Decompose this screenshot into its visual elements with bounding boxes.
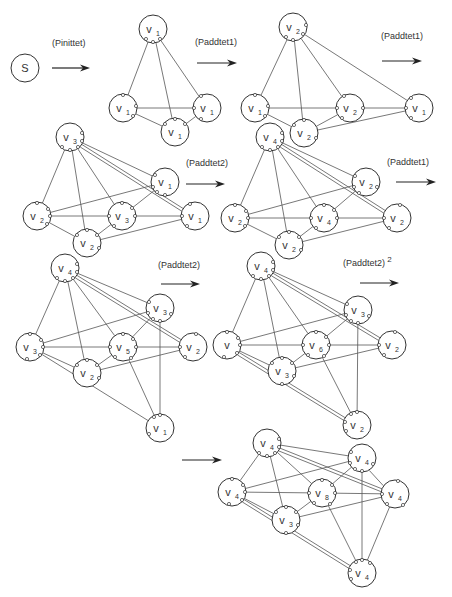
nodes-layer: Sv1v1v1v1v2v1v2v2v1v3v1v2v3v1v2v4v2v2v4v… (11, 13, 433, 587)
port-icon (263, 114, 266, 117)
port-icon (267, 274, 270, 277)
port-icon (68, 148, 71, 151)
port-icon (352, 185, 355, 188)
edge-p2a-p2c (161, 41, 199, 97)
node-subscript: 1 (258, 109, 262, 116)
node-label: v (412, 102, 418, 114)
production-arrow-a8 (182, 457, 222, 464)
node-p8d: v8 (307, 478, 336, 507)
port-icon (155, 190, 158, 193)
node-subscript: 3 (361, 311, 365, 318)
edge-p8e-p8g (367, 507, 389, 560)
port-icon (322, 203, 325, 206)
node-p7f: v3 (268, 356, 296, 385)
port-icon (80, 139, 83, 142)
port-icon (349, 412, 352, 415)
port-icon (120, 201, 123, 204)
edge-p8d-p8e (336, 493, 381, 494)
edge-p7d-p7g (322, 357, 350, 412)
node-p7g: v2 (343, 410, 371, 439)
node-p3d: v2 (290, 118, 318, 147)
node-label: v (317, 212, 323, 224)
port-icon (344, 313, 347, 316)
node-label: v (153, 302, 159, 314)
port-icon (274, 510, 277, 513)
node-circle (193, 94, 221, 122)
port-icon (80, 131, 83, 134)
node-p5f: v2 (275, 230, 303, 259)
port-icon (146, 311, 149, 314)
node-label: v (282, 239, 288, 251)
port-icon (360, 469, 363, 472)
production-label: (Pinittet) (52, 38, 86, 48)
node-subscript: 4 (327, 219, 331, 226)
node-p2b: v1 (109, 93, 138, 122)
node-p7c: v (213, 330, 242, 359)
port-icon (163, 193, 166, 196)
edge-p6f-p6d (98, 355, 111, 365)
node-subscript: 1 (422, 109, 426, 116)
port-icon (225, 330, 228, 333)
node-label: v (30, 210, 36, 222)
node-p5a: v4 (256, 123, 284, 152)
port-icon (320, 478, 323, 481)
port-icon (296, 523, 299, 526)
node-subscript: 1 (168, 183, 172, 190)
node-label: v (153, 422, 159, 434)
port-icon (302, 118, 305, 121)
port-icon (268, 148, 271, 151)
node-p3c: v2 (335, 94, 364, 122)
port-icon (299, 248, 302, 251)
port-icon (238, 343, 241, 346)
port-icon (356, 321, 359, 324)
port-icon (243, 224, 246, 227)
edge-p7a-p7f (264, 280, 280, 358)
edge-p8a-p8b (281, 445, 348, 456)
production-label: (Paddtet2) (186, 158, 228, 168)
port-icon (85, 358, 88, 361)
port-icon (328, 502, 331, 505)
node-label: v (224, 339, 230, 351)
node-subscript: 4 (235, 493, 239, 500)
node-label: v (343, 102, 349, 114)
port-icon (158, 413, 161, 416)
node-subscript: 1 (178, 133, 182, 140)
node-p7d: v6 (301, 330, 330, 359)
edge-p6a-p6d (73, 279, 114, 335)
port-icon (192, 106, 195, 109)
port-icon (188, 202, 191, 205)
node-p5c: v2 (221, 203, 250, 232)
port-icon (97, 246, 100, 249)
port-icon (287, 230, 290, 233)
node-label: v (388, 488, 394, 500)
node-p6g: v1 (146, 413, 174, 442)
production-arrow-a2: (Paddtet1) (195, 37, 237, 67)
port-icon (277, 235, 280, 238)
port-icon (345, 302, 348, 305)
node-subscript: 2 (353, 109, 357, 116)
port-icon (301, 32, 304, 35)
port-icon (173, 117, 176, 120)
port-icon (235, 351, 238, 354)
port-icon (75, 363, 78, 366)
port-icon (253, 93, 256, 96)
port-icon (169, 312, 172, 315)
node-label: v (355, 567, 361, 579)
node-label: v (168, 126, 174, 138)
port-icon (131, 114, 134, 117)
port-icon (95, 233, 98, 236)
port-icon (291, 38, 294, 41)
node-label: v (309, 339, 315, 351)
port-icon (307, 491, 310, 494)
edge-p5a-p5c (241, 150, 265, 205)
port-icon (121, 332, 124, 335)
node-label: v (260, 437, 266, 449)
node-p7a: v4 (247, 252, 275, 281)
port-icon (46, 207, 49, 210)
port-icon (367, 314, 370, 317)
port-icon (97, 376, 100, 379)
port-icon (240, 498, 243, 501)
port-icon (147, 432, 150, 435)
node-subscript: 2 (307, 134, 311, 141)
port-icon (322, 354, 325, 357)
